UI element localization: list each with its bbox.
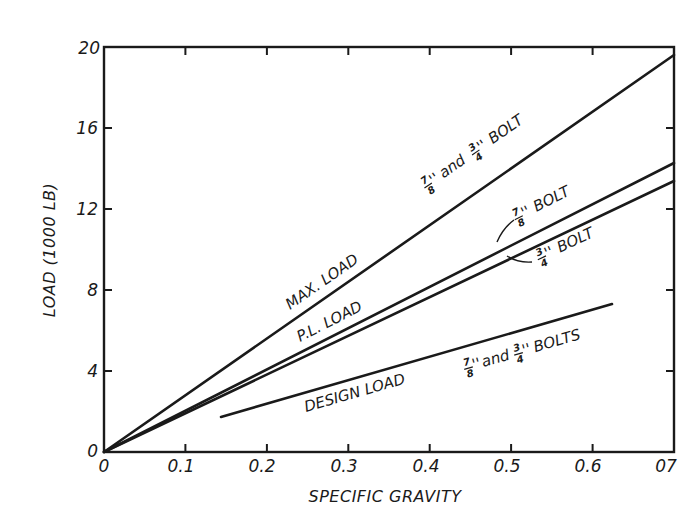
y-tick-4: 4: [87, 361, 98, 381]
y-tick-0: 0: [87, 441, 98, 461]
design-load-line: [221, 304, 612, 417]
y-axis-title: LOAD (1000 LB): [40, 183, 59, 318]
y-tick-16: 16: [76, 118, 98, 138]
x-tick-3: 0.3: [330, 456, 357, 476]
pl-load-7-8-line: [104, 163, 674, 452]
pl-load-3-4-line: [104, 181, 674, 452]
design-load-bolts-annotation: 7 8 '' and 3 4 '' BOLTS: [461, 324, 584, 380]
x-tick-6: 0.6: [574, 456, 601, 476]
x-tick-1: 0.1: [167, 456, 194, 476]
chart: 0 0.1 0.2 0.3 0.4 0.5 0.6 07 0 4 8 12 16…: [0, 0, 691, 524]
y-tick-8: 8: [87, 280, 98, 300]
svg-text:DESIGN LOAD: DESIGN LOAD: [302, 370, 407, 416]
x-axis-title: SPECIFIC GRAVITY: [309, 487, 463, 506]
svg-text:BOLT: BOLT: [530, 181, 574, 215]
x-tick-4: 0.4: [412, 456, 439, 476]
x-tick-7: 07: [655, 456, 677, 476]
y-tick-20: 20: [78, 38, 100, 58]
svg-text:BOLT: BOLT: [485, 110, 528, 148]
max-load-line: [104, 55, 674, 452]
y-ticks: [104, 128, 674, 371]
pl-7-8-leader: [497, 220, 514, 242]
x-tick-labels: 0 0.1 0.2 0.3 0.4 0.5 0.6 07: [99, 456, 677, 476]
svg-text:and: and: [435, 151, 469, 182]
x-tick-5: 0.5: [493, 456, 520, 476]
max-load-bolt-annotation: 7 8 '' and 3 4 '' BOLT: [418, 109, 531, 197]
svg-text:BOLTS: BOLTS: [531, 325, 583, 356]
y-tick-labels: 0 4 8 12 16 20: [76, 38, 100, 461]
svg-text:and: and: [479, 346, 512, 371]
y-tick-12: 12: [76, 199, 98, 219]
design-load-annotation: DESIGN LOAD: [302, 370, 407, 416]
x-tick-0: 0: [99, 456, 110, 476]
pl-7-8-bolt-annotation: 7 8 '' BOLT: [509, 180, 576, 229]
x-tick-2: 0.2: [248, 456, 275, 476]
data-lines: [104, 55, 674, 452]
